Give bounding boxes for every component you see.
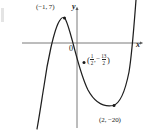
inflection-point bbox=[83, 61, 86, 64]
inflection-close-paren: ) bbox=[107, 56, 110, 65]
x-axis-label: x bbox=[136, 41, 140, 49]
local-minimum-label: (2, −20) bbox=[99, 117, 121, 124]
cubic-graph-plot bbox=[0, 0, 145, 130]
local-minimum-point bbox=[113, 104, 116, 107]
inflection-y-denominator: 2 bbox=[102, 59, 106, 66]
inflection-y-fraction: 13 2 bbox=[101, 54, 107, 66]
graph-figure: y x 0 (−1, 7) (2, −20) ( 1 2 , − 13 2 ) bbox=[0, 0, 145, 130]
inflection-point-label: ( 1 2 , − 13 2 ) bbox=[87, 54, 110, 66]
y-axis-label: y bbox=[72, 3, 76, 11]
local-maximum-point bbox=[63, 17, 66, 20]
local-maximum-label: (−1, 7) bbox=[36, 4, 54, 11]
origin-label: 0 bbox=[69, 45, 73, 53]
